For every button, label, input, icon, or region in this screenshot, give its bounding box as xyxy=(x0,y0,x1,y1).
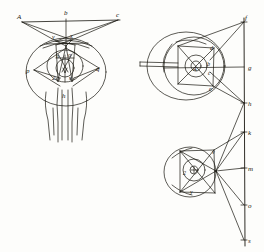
label-n: n xyxy=(56,53,59,59)
label-layer: A b c v x n o p q 2 s h A d b c e 2 v y … xyxy=(16,9,253,245)
label-c: c xyxy=(116,11,120,19)
label-h-nerve: h xyxy=(62,92,66,100)
label-k: k xyxy=(248,129,252,137)
label-c-lower: c xyxy=(208,70,211,76)
label-y: y xyxy=(189,189,193,195)
illustration-plate: A b c v x n o p q 2 s h A d b c e 2 v y … xyxy=(0,0,264,252)
label-o-screen: o xyxy=(248,202,252,210)
label-b: b xyxy=(64,9,68,17)
label-o: o xyxy=(68,52,71,58)
plate-canvas: A b c v x n o p q 2 s h A d b c e 2 v y … xyxy=(0,0,264,252)
label-f: f xyxy=(245,14,248,22)
label-e: e xyxy=(209,86,212,92)
label-h-screen: h xyxy=(248,100,252,108)
label-g: g xyxy=(248,64,252,72)
label-b-nodal: b xyxy=(207,61,210,67)
projection-screen-line xyxy=(241,18,247,246)
label-m: m xyxy=(248,165,253,173)
label-v: v xyxy=(52,34,55,40)
label-two-b: 2 xyxy=(183,170,186,176)
figure-upper-right-geometry xyxy=(140,22,244,103)
label-p: p xyxy=(25,67,30,75)
label-two: 2 xyxy=(52,75,55,81)
label-x: x xyxy=(69,33,73,39)
label-q: q xyxy=(96,65,100,73)
label-A-lens: A xyxy=(192,66,197,72)
figure-lower-right-geometry xyxy=(164,103,244,240)
label-a: A xyxy=(16,13,22,21)
label-s-screen: s xyxy=(248,237,251,245)
label-v-b: v xyxy=(212,149,215,155)
